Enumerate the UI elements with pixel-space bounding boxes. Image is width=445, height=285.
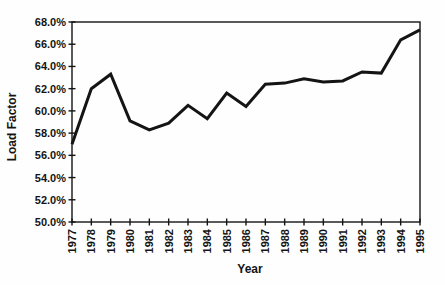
x-axis-title: Year (237, 262, 263, 276)
x-tick-label: 1992 (356, 229, 368, 253)
y-tick-label: 50.0% (35, 216, 66, 228)
x-tick-label: 1988 (279, 229, 291, 253)
y-tick-label: 68.0% (35, 16, 66, 28)
x-tick-label: 1984 (201, 228, 213, 253)
x-tick-label: 1985 (221, 229, 233, 253)
x-tick-label: 1978 (85, 229, 97, 253)
x-tick-label: 1980 (124, 229, 136, 253)
x-tick-label: 1987 (259, 229, 271, 253)
x-tick-label: 1994 (395, 228, 407, 253)
x-tick-label: 1995 (414, 229, 426, 253)
y-tick-label: 56.0% (35, 149, 66, 161)
x-tick-label: 1986 (240, 229, 252, 253)
x-tick-label: 1991 (337, 229, 349, 253)
x-tick-label: 1989 (298, 229, 310, 253)
x-tick-label: 1990 (317, 229, 329, 253)
y-tick-label: 54.0% (35, 172, 66, 184)
x-tick-label: 1982 (163, 229, 175, 253)
plot-border (72, 22, 420, 222)
x-tick-label: 1979 (105, 229, 117, 253)
y-tick-label: 64.0% (35, 60, 66, 72)
chart-canvas: 68.0%66.0%64.0%62.0%60.0%58.0%56.0%54.0%… (0, 0, 445, 285)
load-factor-chart: 68.0%66.0%64.0%62.0%60.0%58.0%56.0%54.0%… (0, 0, 445, 285)
y-axis-title: Load Factor (5, 92, 19, 161)
y-tick-label: 60.0% (35, 105, 66, 117)
x-tick-label: 1983 (182, 229, 194, 253)
x-tick-label: 1981 (143, 229, 155, 253)
y-tick-label: 62.0% (35, 83, 66, 95)
y-tick-label: 52.0% (35, 194, 66, 206)
x-tick-label: 1977 (66, 229, 78, 253)
x-axis: 1977197819791980198119821983198419851986… (66, 219, 426, 254)
y-tick-label: 58.0% (35, 127, 66, 139)
y-axis: 68.0%66.0%64.0%62.0%60.0%58.0%56.0%54.0%… (35, 16, 76, 228)
data-line-load-factor (72, 30, 420, 144)
x-tick-label: 1993 (375, 229, 387, 253)
y-tick-label: 66.0% (35, 38, 66, 50)
